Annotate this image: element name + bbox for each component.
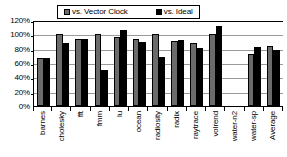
x-axis-tick-label: volrend xyxy=(212,111,220,137)
bar-group xyxy=(245,21,264,106)
legend-item-ideal: vs. Ideal xyxy=(156,8,193,16)
x-axis-tick-label: cholesky xyxy=(58,111,66,141)
bar xyxy=(159,57,166,106)
x-label-cell: fft xyxy=(71,111,90,157)
bar xyxy=(178,40,185,106)
bar-group xyxy=(111,21,130,106)
bar xyxy=(139,42,146,106)
y-tick-label: 20% xyxy=(0,89,30,97)
x-axis-tick-label: raytrace xyxy=(192,111,200,139)
x-axis-tick-label: barnes xyxy=(39,111,47,135)
x-axis-tick-label: radix xyxy=(173,111,181,128)
bar-group xyxy=(91,21,110,106)
legend-item-vector-clock: vs. Vector Clock xyxy=(64,8,128,16)
x-axis-tick-label: Average xyxy=(269,111,277,140)
plot-area xyxy=(33,21,283,107)
bar-chart: 120% 100% 80% 60% 40% 20% 0% barneschole… xyxy=(0,0,287,157)
x-label-cell: cholesky xyxy=(52,111,71,157)
bar-group xyxy=(264,21,283,106)
x-axis-tick-label: water-sp xyxy=(250,111,258,141)
y-tick-label: 80% xyxy=(0,46,30,54)
legend-swatch-icon xyxy=(64,9,70,15)
bar-group xyxy=(206,21,225,106)
x-axis-tick-label: radiosity xyxy=(154,111,162,140)
bar-group xyxy=(130,21,149,106)
bar xyxy=(101,70,108,106)
x-label-cell: water-sp xyxy=(245,111,264,157)
y-tick-label: 100% xyxy=(0,31,30,39)
bar-group xyxy=(168,21,187,106)
bar xyxy=(197,48,204,106)
legend: vs. Vector Clock vs. Ideal xyxy=(57,5,200,19)
legend-label: vs. Vector Clock xyxy=(72,8,128,16)
bar-group xyxy=(72,21,91,106)
x-axis-tick-label: fmm xyxy=(96,111,104,126)
x-axis-tick-label: water-n2 xyxy=(231,111,239,141)
y-tick-label: 40% xyxy=(0,74,30,82)
bar xyxy=(273,50,280,106)
bar xyxy=(63,43,70,106)
bar xyxy=(216,26,223,106)
x-label-cell: volrend xyxy=(206,111,225,157)
y-axis: 120% 100% 80% 60% 40% 20% 0% xyxy=(0,21,30,107)
bars-layer xyxy=(34,21,283,106)
x-label-cell: radix xyxy=(168,111,187,157)
bar-group xyxy=(53,21,72,106)
x-axis-tick-label: lu xyxy=(116,111,124,117)
bar-group xyxy=(34,21,53,106)
bar-group xyxy=(226,21,245,106)
bar xyxy=(120,30,127,106)
x-label-cell: Average xyxy=(264,111,283,157)
x-label-cell: fmm xyxy=(91,111,110,157)
x-axis-tick-label: ocean xyxy=(135,111,143,132)
y-tick-label: 60% xyxy=(0,60,30,68)
bar xyxy=(44,58,51,106)
x-label-cell: barnes xyxy=(33,111,52,157)
y-tick-label: 0% xyxy=(0,103,30,111)
x-label-cell: water-n2 xyxy=(225,111,244,157)
x-label-cell: lu xyxy=(110,111,129,157)
x-label-cell: raytrace xyxy=(187,111,206,157)
x-axis-labels: barnescholeskyfftfmmluoceanradiosityradi… xyxy=(33,111,283,157)
bar-group xyxy=(187,21,206,106)
x-label-cell: radiosity xyxy=(148,111,167,157)
bar xyxy=(254,47,261,106)
y-tick-label: 120% xyxy=(0,17,30,25)
x-label-cell: ocean xyxy=(129,111,148,157)
bar xyxy=(82,39,89,106)
bar-group xyxy=(149,21,168,106)
legend-label: vs. Ideal xyxy=(164,8,193,16)
x-axis-tick-label: fft xyxy=(77,111,85,117)
legend-swatch-icon xyxy=(156,9,162,15)
